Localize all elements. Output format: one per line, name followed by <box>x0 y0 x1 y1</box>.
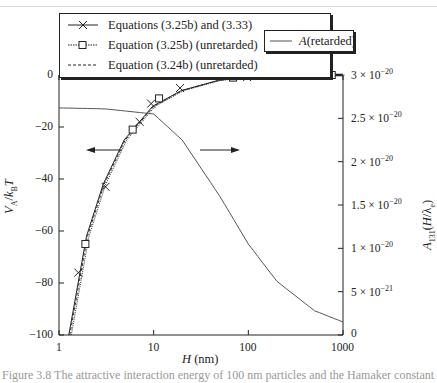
left-arrow-icon <box>86 147 95 153</box>
series <box>59 72 345 336</box>
axes <box>59 75 343 335</box>
y-right-tick-label: 0 <box>351 327 357 339</box>
y-left-tick-label: −20 <box>35 120 53 132</box>
y-left-axis-title: VA/kBT <box>2 179 19 214</box>
figure-caption: Figure 3.8 The attractive interaction en… <box>2 368 434 383</box>
square-marker-line-icon <box>66 39 100 51</box>
y-right-tick-label: 2 × 10−20 <box>351 154 393 168</box>
y-right-tick-label: 1 × 10−20 <box>351 240 393 254</box>
x-marker <box>147 100 155 108</box>
square-marker <box>82 241 89 248</box>
y-left-tick-label: −60 <box>35 224 53 236</box>
legend-retarded: A (retarded) <box>264 30 354 52</box>
x-axis-title: H (nm) <box>182 352 218 367</box>
y-left-tick-label: −100 <box>29 328 53 340</box>
y-right-tick-label: 1.5 × 10−20 <box>351 197 402 211</box>
solid-line-icon <box>269 35 293 47</box>
y-right-axis-title: A131(H/λe) <box>420 200 437 250</box>
x-marker-line-icon <box>66 19 100 31</box>
x-marker <box>74 269 82 277</box>
y-left-tick-label: −80 <box>35 276 53 288</box>
y-right-tick-label: 3 × 10−20 <box>351 67 393 81</box>
y-right-tick-label: 5 × 10−21 <box>351 284 393 298</box>
axis-arrows <box>86 147 240 153</box>
y-left-tick-label: −40 <box>35 172 53 184</box>
y-left-tick-label: 0 <box>47 68 53 80</box>
x-tick-label: 1000 <box>331 341 354 353</box>
square-marker <box>129 126 136 133</box>
legend-item-eq324b-unretarded: Equation (3.24b) (unretarded) <box>60 55 330 75</box>
y-right-tick-label: 2.5 × 10−20 <box>351 110 402 124</box>
legend-item-a-retarded: A (retarded) <box>265 31 353 51</box>
right-arrow-icon <box>231 147 240 153</box>
x-marker <box>136 118 144 126</box>
square-marker <box>156 95 163 102</box>
x-tick-label: 10 <box>148 341 160 353</box>
x-tick-label: 100 <box>239 341 256 353</box>
dashed-line-icon <box>66 59 100 71</box>
x-tick-label: 1 <box>56 341 62 353</box>
